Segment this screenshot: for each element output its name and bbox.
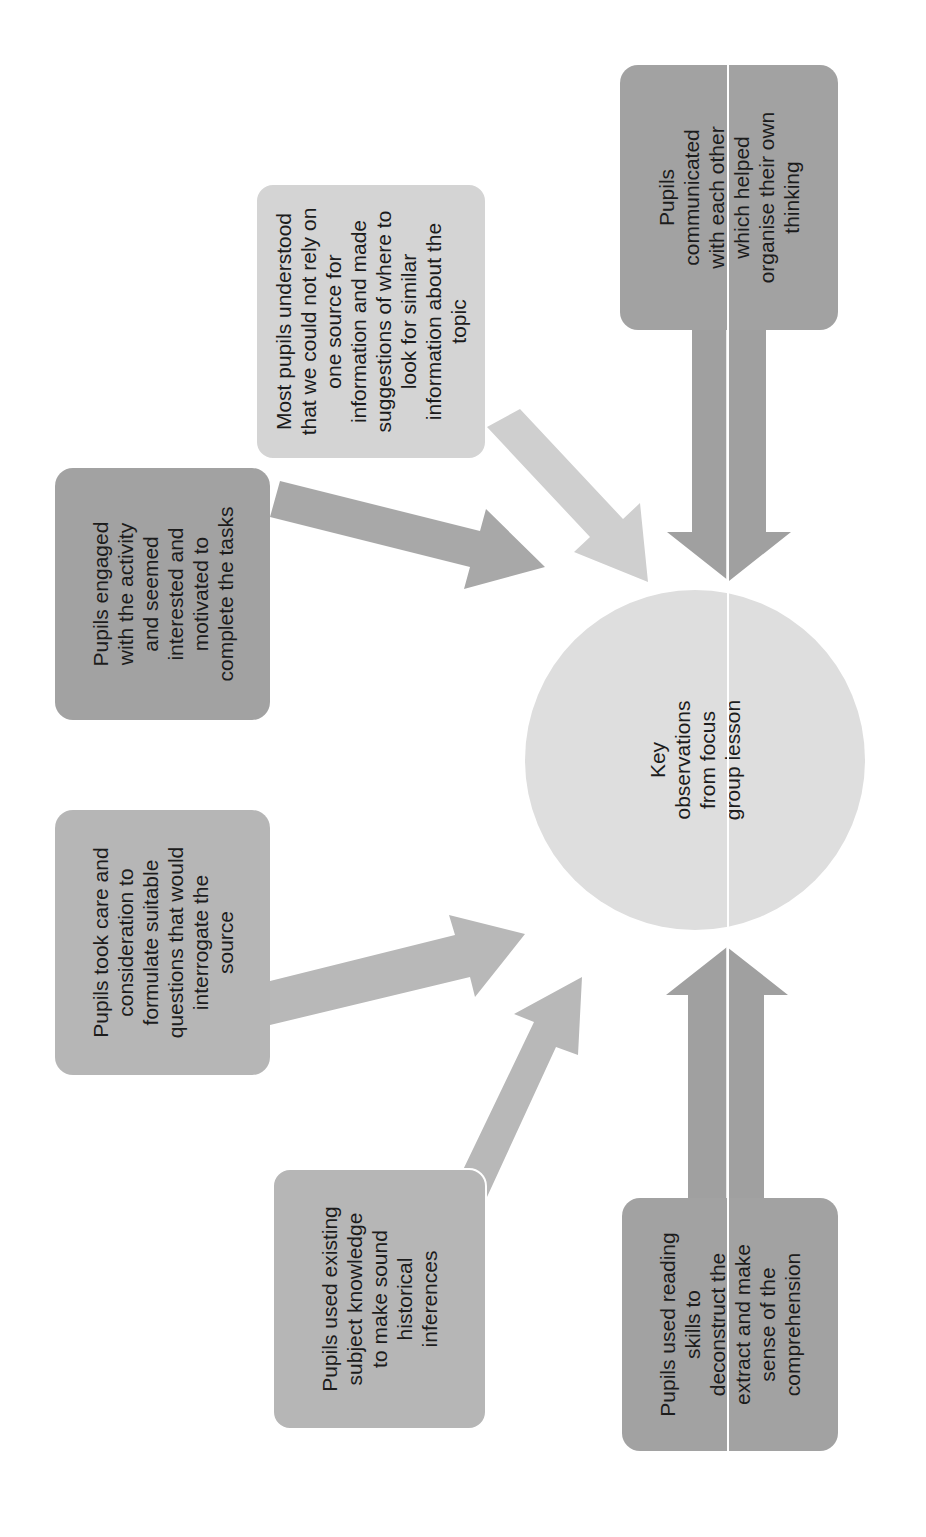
- arrow-communicated-icon: [667, 330, 791, 581]
- hub-label: Key observations from focus group lesson: [645, 700, 745, 820]
- arrow-knowledge-icon: [462, 977, 582, 1197]
- node-reading: Pupils used reading skills to deconstruc…: [622, 1198, 838, 1451]
- node-questions-label: Pupils took care and consideration to fo…: [88, 847, 238, 1038]
- arrow-questions-icon: [262, 915, 525, 1025]
- arrow-engaged-icon: [270, 481, 545, 589]
- node-sources: Most pupils understood that we could not…: [255, 183, 487, 460]
- node-engaged-label: Pupils engaged with the activity and see…: [88, 506, 238, 681]
- node-engaged: Pupils engaged with the activity and see…: [55, 468, 270, 720]
- node-communicated: Pupils communicated with each other whic…: [620, 65, 838, 330]
- node-reading-label: Pupils used reading skills to deconstruc…: [655, 1232, 805, 1416]
- node-sources-label: Most pupils understood that we could not…: [271, 208, 471, 436]
- divider-line-overlay: [727, 57, 729, 1457]
- node-questions: Pupils took care and consideration to fo…: [55, 810, 270, 1075]
- node-communicated-label: Pupils communicated with each other whic…: [654, 112, 804, 284]
- node-knowledge-label: Pupils used existing subject knowledge t…: [317, 1206, 442, 1392]
- diagram-canvas: Key observations from focus group lesson…: [0, 0, 926, 1537]
- node-knowledge: Pupils used existing subject knowledge t…: [272, 1168, 487, 1430]
- hub-circle: Key observations from focus group lesson: [525, 590, 865, 930]
